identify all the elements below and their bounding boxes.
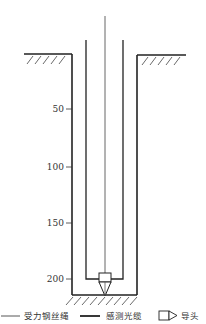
borehole-diagram: 50 100 150 200 受力钢丝绳 感测光缆 导头 [0, 0, 206, 324]
legend-guide-head: 导头 [181, 311, 199, 321]
borehole [66, 54, 137, 305]
tick-50: 50 [53, 104, 65, 114]
legend-steel-wire-rope: 受力钢丝绳 [24, 311, 69, 321]
legend-sensing-cable: 感测光缆 [106, 311, 142, 321]
depth-axis: 50 100 150 200 [47, 104, 72, 284]
legend: 受力钢丝绳 感测光缆 导头 [1, 311, 199, 321]
tick-100: 100 [47, 162, 64, 172]
ground-left [24, 54, 72, 64]
guide-head [99, 273, 111, 296]
ground-right [137, 55, 186, 65]
tick-200: 200 [47, 274, 64, 284]
legend-guide-head-icon [159, 311, 177, 320]
tick-150: 150 [47, 218, 64, 228]
sensing-cable [86, 40, 123, 279]
bottom-hatch [66, 297, 137, 305]
